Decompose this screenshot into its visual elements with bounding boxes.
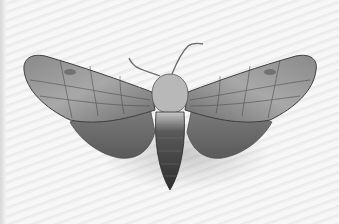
antennae xyxy=(129,43,203,76)
moth-illustration xyxy=(0,0,339,224)
moth-photo: Moth specimen, wings spread, dorsal view xyxy=(0,0,339,224)
moth-body xyxy=(152,74,188,190)
